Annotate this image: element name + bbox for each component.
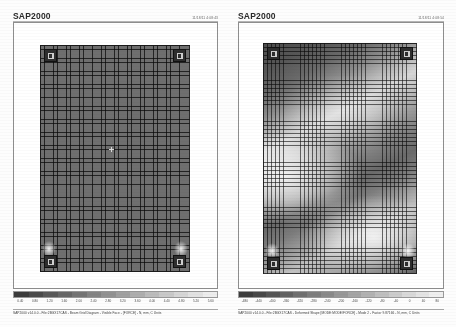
support-top-right-icon[interactable] xyxy=(173,49,186,62)
support-glyph xyxy=(48,53,54,59)
panel-right-title-row: SAP2000 11/18/11 4:08:54 xyxy=(238,8,444,21)
panel-right-mode-shape: SAP2000 11/18/11 4:08:54 -480-440-400-36… xyxy=(228,0,456,327)
panel-left-frame xyxy=(13,22,218,289)
legend-swatch-8 xyxy=(130,292,145,297)
legend-swatch-2 xyxy=(43,292,58,297)
app-title: SAP2000 xyxy=(238,12,276,21)
legend-tick-1: -440 xyxy=(252,298,266,305)
panel-caption: SAP2000 v14.0.0 - File:2BGX17CAS - Beam … xyxy=(13,311,218,316)
legend-swatch-13 xyxy=(203,292,218,297)
legend-tick-12: 0 xyxy=(403,298,417,305)
legend-swatch-5 xyxy=(307,292,321,297)
legend-tick-3: 1.60 xyxy=(57,298,72,305)
legend-tick-13: 5.60 xyxy=(203,298,218,305)
legend-tick-0: -480 xyxy=(238,298,252,305)
panel-timestamp: 11/18/11 4:08:54 xyxy=(418,16,444,20)
legend-tick-4: -320 xyxy=(293,298,307,305)
support-glyph xyxy=(271,51,277,57)
panel-right-legend: -480-440-400-360-320-280-240-200-160-120… xyxy=(238,291,444,305)
legend-tick-4: 2.00 xyxy=(72,298,87,305)
support-glyph xyxy=(177,53,183,59)
legend-swatch-9 xyxy=(145,292,160,297)
support-bottom-right-icon[interactable] xyxy=(400,257,413,270)
legend-tick-9: 4.00 xyxy=(145,298,160,305)
legend-tick-5: -280 xyxy=(307,298,321,305)
contour-plot-area[interactable] xyxy=(263,43,417,274)
legend-swatch-12 xyxy=(402,292,416,297)
panel-timestamp: 11/18/11 4:08:43 xyxy=(192,16,218,20)
mesh-plot-area[interactable] xyxy=(40,45,190,272)
legend-swatch-3 xyxy=(280,292,294,297)
legend-swatch-4 xyxy=(72,292,87,297)
legend-swatch-8 xyxy=(348,292,362,297)
legend-swatch-0 xyxy=(14,292,29,297)
legend-swatch-1 xyxy=(253,292,267,297)
support-glyph xyxy=(271,261,277,267)
legend-tick-10: 4.40 xyxy=(159,298,174,305)
support-glyph xyxy=(177,259,183,265)
legend-color-bar xyxy=(13,291,218,298)
support-top-right-icon[interactable] xyxy=(400,47,413,60)
legend-tick-9: -120 xyxy=(362,298,376,305)
legend-tick-0: 0.40 xyxy=(13,298,28,305)
support-top-left-icon[interactable] xyxy=(267,47,280,60)
support-bottom-left-icon[interactable] xyxy=(44,255,57,268)
legend-tick-11: -40 xyxy=(389,298,403,305)
support-top-left-icon[interactable] xyxy=(44,49,57,62)
legend-swatch-2 xyxy=(266,292,280,297)
support-glyph xyxy=(48,259,54,265)
document-sheet: SAP2000 11/18/11 4:08:43 0.400.801.2 xyxy=(0,0,456,327)
caption-divider xyxy=(238,309,444,310)
caption-divider xyxy=(13,309,218,310)
legend-swatch-0 xyxy=(239,292,253,297)
support-glyph xyxy=(404,51,410,57)
support-bottom-right-icon[interactable] xyxy=(173,255,186,268)
legend-tick-5: 2.40 xyxy=(86,298,101,305)
panel-left-mesh: SAP2000 11/18/11 4:08:43 0.400.801.2 xyxy=(0,0,228,327)
legend-tick-7: -200 xyxy=(334,298,348,305)
app-title: SAP2000 xyxy=(13,12,51,21)
legend-swatch-4 xyxy=(293,292,307,297)
legend-tick-6: 2.80 xyxy=(101,298,116,305)
panel-right-frame xyxy=(238,22,444,289)
legend-tick-10: -80 xyxy=(375,298,389,305)
panel-left-title-row: SAP2000 11/18/11 4:08:43 xyxy=(13,8,218,21)
legend-swatch-6 xyxy=(321,292,335,297)
legend-swatch-9 xyxy=(361,292,375,297)
panel-left-legend: 0.400.801.201.602.002.402.803.203.604.00… xyxy=(13,291,218,305)
legend-tick-row: -480-440-400-360-320-280-240-200-160-120… xyxy=(238,298,444,305)
legend-swatch-1 xyxy=(29,292,44,297)
finite-element-grid xyxy=(263,43,417,274)
legend-tick-6: -240 xyxy=(320,298,334,305)
legend-swatch-13 xyxy=(416,292,430,297)
legend-tick-7: 3.20 xyxy=(115,298,130,305)
legend-swatch-11 xyxy=(389,292,403,297)
legend-tick-3: -360 xyxy=(279,298,293,305)
node-marker-icon xyxy=(109,147,114,152)
legend-swatch-10 xyxy=(375,292,389,297)
legend-swatch-6 xyxy=(101,292,116,297)
legend-tick-2: 1.20 xyxy=(42,298,57,305)
legend-tick-row: 0.400.801.201.602.002.402.803.203.604.00… xyxy=(13,298,218,305)
support-glyph xyxy=(404,261,410,267)
legend-color-bar xyxy=(238,291,444,298)
legend-tick-8: 3.60 xyxy=(130,298,145,305)
legend-swatch-7 xyxy=(116,292,131,297)
legend-tick-1: 0.80 xyxy=(28,298,43,305)
legend-swatch-5 xyxy=(87,292,102,297)
legend-swatch-11 xyxy=(174,292,189,297)
legend-swatch-7 xyxy=(334,292,348,297)
legend-tick-13: 40 xyxy=(417,298,431,305)
legend-swatch-10 xyxy=(159,292,174,297)
legend-tick-2: -400 xyxy=(265,298,279,305)
legend-swatch-14 xyxy=(429,292,443,297)
support-bottom-left-icon[interactable] xyxy=(267,257,280,270)
legend-swatch-12 xyxy=(188,292,203,297)
legend-tick-12: 5.20 xyxy=(189,298,204,305)
legend-tick-11: 4.80 xyxy=(174,298,189,305)
panel-caption: SAP2000 v14.0.0 - File:2BGX17CAS - Defor… xyxy=(238,311,444,316)
legend-tick-14: 80 xyxy=(430,298,444,305)
legend-tick-8: -160 xyxy=(348,298,362,305)
legend-swatch-3 xyxy=(58,292,73,297)
finite-element-grid xyxy=(40,45,190,272)
